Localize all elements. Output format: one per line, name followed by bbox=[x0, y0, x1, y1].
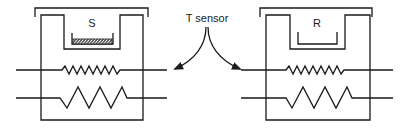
reference-cell: R bbox=[241, 8, 393, 120]
temperature-sensor-callout: T sensor bbox=[175, 12, 240, 69]
sample-cell-housing bbox=[41, 15, 143, 120]
sample-cell: S bbox=[16, 8, 167, 120]
reference-label: R bbox=[313, 17, 321, 29]
reference-pan bbox=[298, 32, 337, 44]
dsc-diagram: S R T sensor bbox=[0, 0, 408, 130]
t-sensor-label: T sensor bbox=[186, 12, 229, 24]
reference-cell-housing bbox=[266, 15, 370, 120]
arrow-to-sample-icon bbox=[175, 27, 206, 69]
sample-material-hatch bbox=[73, 39, 112, 44]
sample-label: S bbox=[88, 17, 95, 29]
sample-sensor-wire bbox=[16, 66, 167, 74]
sample-heater-wire bbox=[16, 87, 167, 108]
arrow-to-reference-icon bbox=[208, 27, 240, 69]
